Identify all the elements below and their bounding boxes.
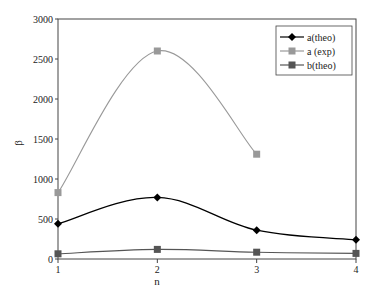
x-tick-label: 2 — [155, 264, 160, 275]
y-tick-label: 500 — [38, 214, 53, 225]
y-tick-label: 0 — [48, 254, 53, 265]
legend-label: b(theo) — [307, 60, 336, 72]
y-tick-label: 2000 — [33, 94, 53, 105]
line-chart: 050010001500200025003000 1234 β n a(theo… — [0, 0, 374, 298]
data-point-marker — [154, 246, 161, 253]
y-tick-label: 3000 — [33, 14, 53, 25]
data-point-marker — [154, 48, 161, 55]
series-b-theo- — [55, 246, 360, 257]
y-tick-label: 1500 — [33, 134, 53, 145]
x-tick-label: 4 — [354, 264, 359, 275]
legend: a(theo)a (exp)b(theo) — [276, 26, 352, 75]
y-tick-label: 2500 — [33, 54, 53, 65]
data-point-marker — [353, 250, 360, 257]
y-tick-label: 1000 — [33, 174, 53, 185]
x-tick-label: 1 — [56, 264, 61, 275]
series-line — [58, 249, 356, 253]
series-a-theo- — [54, 193, 360, 243]
legend-label: a (exp) — [307, 46, 335, 58]
data-point-marker — [55, 189, 62, 196]
data-point-marker — [54, 220, 62, 228]
x-axis-label: n — [154, 275, 160, 287]
data-point-marker — [55, 250, 62, 257]
series-a-exp- — [55, 48, 261, 197]
series-line — [58, 197, 356, 239]
square-marker-icon — [289, 48, 296, 55]
square-marker-icon — [289, 62, 296, 69]
series-group — [54, 48, 360, 258]
y-axis-label: β — [12, 140, 24, 146]
data-point-marker — [253, 226, 261, 234]
data-point-marker — [352, 236, 360, 244]
data-point-marker — [253, 249, 260, 256]
x-axis-ticks: 1234 — [56, 259, 359, 275]
data-point-marker — [153, 193, 161, 201]
series-line — [58, 51, 257, 193]
data-point-marker — [253, 151, 260, 158]
x-tick-label: 3 — [254, 264, 259, 275]
y-axis-ticks: 050010001500200025003000 — [33, 14, 58, 265]
legend-label: a(theo) — [307, 32, 335, 44]
